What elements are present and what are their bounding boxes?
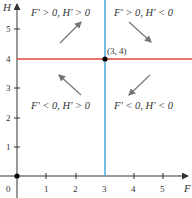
y-tick-1: 1: [6, 142, 11, 152]
y-tick-4: 4: [6, 54, 11, 64]
equilibrium-point: [102, 56, 107, 61]
region-label-bottom-left: F′ < 0, H′ > 0: [30, 100, 91, 111]
region-label-top-right: F′ > 0, H′ < 0: [113, 7, 174, 18]
y-axis-label: H: [2, 1, 12, 13]
x-tick-5: 5: [160, 184, 165, 194]
x-tick-4: 4: [131, 184, 136, 194]
y-tick-5: 5: [6, 24, 11, 34]
x-tick-1: 1: [44, 184, 49, 194]
arrow-down-right-icon: [129, 22, 151, 42]
x-axis-label: F: [183, 182, 191, 194]
region-label-top-left: F′ > 0, H′ > 0: [30, 7, 91, 18]
x-tick-2: 2: [73, 184, 78, 194]
origin-point: [14, 173, 19, 178]
y-tick-2: 2: [6, 113, 11, 123]
arrow-up-right-icon: [60, 22, 81, 43]
y-tick-3: 3: [6, 83, 11, 93]
arrow-down-left-icon: [129, 75, 150, 95]
equilibrium-label: (3, 4): [107, 46, 127, 56]
arrow-up-left-icon: [59, 75, 81, 95]
x-tick-3: 3: [102, 184, 107, 194]
region-label-bottom-right: F′ < 0, H′ < 0: [113, 100, 174, 111]
origin-label: 0: [6, 184, 11, 194]
phase-plane-diagram: F′ > 0, H′ > 0 F′ > 0, H′ < 0 F′ < 0, H′…: [0, 0, 192, 198]
